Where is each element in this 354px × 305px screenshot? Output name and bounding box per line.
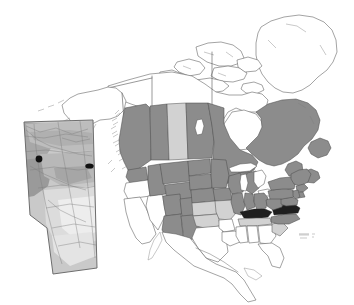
- state-kansas: [192, 201, 217, 216]
- state-south-dakota: [189, 174, 212, 190]
- state-north-dakota: [188, 159, 211, 176]
- state-alabama: [247, 226, 259, 243]
- state-iowa: [213, 188, 232, 201]
- state-ohio: [254, 193, 268, 210]
- north-america-distribution-map: .ln { fill:none; stroke:#545454; stroke-…: [0, 0, 354, 305]
- inset-marker-west: [36, 156, 43, 163]
- state-tennessee: [238, 218, 272, 226]
- state-nebraska: [191, 188, 215, 203]
- province-saskatchewan: [167, 103, 188, 160]
- state-montana: [160, 161, 190, 184]
- state-oregon: [124, 180, 150, 199]
- state-utah: [163, 194, 182, 216]
- map-canvas: .ln { fill:none; stroke:#545454; stroke-…: [0, 0, 354, 305]
- province-alberta: [150, 104, 169, 160]
- inset-marker-east: [85, 163, 93, 168]
- state-oklahoma: [193, 214, 220, 228]
- state-minnesota: [211, 159, 229, 188]
- state-arkansas: [219, 219, 235, 232]
